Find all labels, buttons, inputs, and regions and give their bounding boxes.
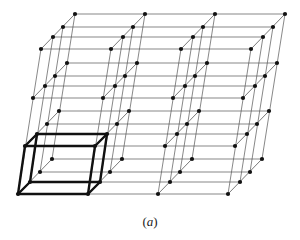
lattice-point [45, 122, 49, 126]
lattice-point [201, 25, 205, 29]
lattice-point [283, 12, 287, 16]
caption-paren-close: ) [153, 214, 157, 229]
lattice-point [168, 180, 172, 184]
vertical-line [122, 14, 145, 159]
lattice-point [156, 192, 160, 196]
lattice-point [86, 192, 90, 196]
lattice-point [197, 109, 201, 113]
lattice-point [43, 84, 47, 88]
depth-line [41, 14, 75, 49]
lattice-point [249, 47, 253, 51]
lattice-point [31, 96, 35, 100]
lattice-point [241, 96, 245, 100]
lattice-point [261, 35, 265, 39]
lattice-point [253, 84, 257, 88]
lattice-point [50, 157, 54, 161]
lattice-point [213, 12, 217, 16]
lattice-point [178, 170, 182, 174]
lattice-point [179, 47, 183, 51]
lattice-point [105, 132, 109, 136]
lattice-point [183, 84, 187, 88]
lattice-point [127, 109, 131, 113]
lattice-point [57, 109, 61, 113]
lattice-point [98, 180, 102, 184]
lattice-point [185, 122, 189, 126]
lattice-point [113, 84, 117, 88]
lattice-point [271, 25, 275, 29]
lattice-point [226, 192, 230, 196]
lattice-point [120, 157, 124, 161]
vertical-line [52, 14, 75, 159]
lattice-point [16, 192, 20, 196]
depth-line [181, 14, 215, 49]
lattice-point [121, 35, 125, 39]
lattice-point [51, 35, 55, 39]
lattice-diagram [0, 0, 300, 240]
lattice-lines [18, 14, 285, 194]
lattice-point [23, 144, 27, 148]
lattice-point [175, 132, 179, 136]
lattice-point [191, 35, 195, 39]
lattice-point [53, 74, 57, 78]
lattice-point [163, 144, 167, 148]
highlighted-unit-cell [18, 134, 107, 194]
lattice-point [275, 61, 279, 65]
lattice-point [28, 180, 32, 184]
vertical-line [250, 27, 273, 172]
lattice-point [267, 109, 271, 113]
lattice-point [35, 132, 39, 136]
lattice-point [115, 122, 119, 126]
lattice-point [135, 61, 139, 65]
lattice-point [190, 157, 194, 161]
depth-line [251, 14, 285, 49]
depth-line [228, 159, 262, 194]
lattice-point [171, 96, 175, 100]
depth-line [158, 159, 192, 194]
lattice-point [143, 12, 147, 16]
lattice-point [248, 170, 252, 174]
lattice-point [39, 47, 43, 51]
lattice-points [16, 12, 287, 196]
lattice-point [38, 170, 42, 174]
lattice-point [73, 12, 77, 16]
lattice-point [108, 170, 112, 174]
lattice-point [101, 96, 105, 100]
vertical-line [240, 37, 263, 182]
lattice-point [255, 122, 259, 126]
vertical-line [170, 37, 193, 182]
figure-caption: (a) [0, 214, 300, 230]
vertical-line [192, 14, 215, 159]
lattice-point [193, 74, 197, 78]
lattice-point [131, 25, 135, 29]
lattice-point [263, 74, 267, 78]
lattice-point [238, 180, 242, 184]
lattice-point [61, 25, 65, 29]
lattice-point [205, 61, 209, 65]
lattice-point [123, 74, 127, 78]
lattice-point [65, 61, 69, 65]
vertical-line [262, 14, 285, 159]
lattice-point [233, 144, 237, 148]
lattice-point [109, 47, 113, 51]
lattice-point [245, 132, 249, 136]
lattice-point [260, 157, 264, 161]
depth-line [111, 14, 145, 49]
lattice-point [93, 144, 97, 148]
